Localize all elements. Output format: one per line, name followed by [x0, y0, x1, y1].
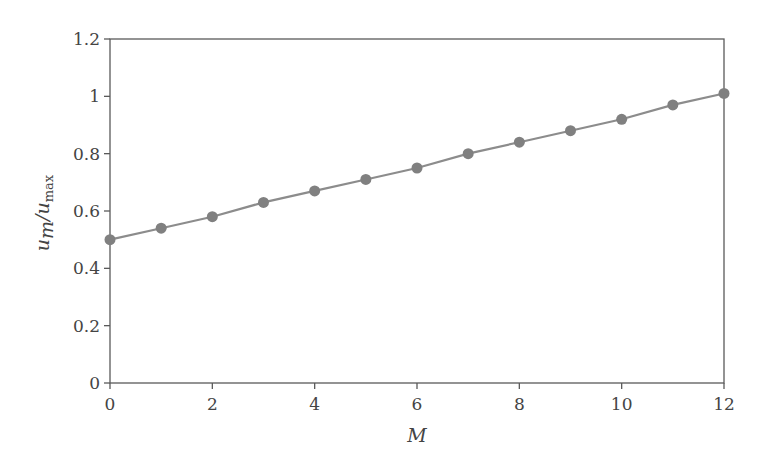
data-point-marker	[156, 223, 167, 234]
data-point-marker	[667, 99, 678, 110]
y-label-u1: u	[31, 239, 53, 251]
y-axis-label: um/umax	[31, 174, 57, 251]
x-tick-label: 12	[713, 394, 735, 414]
y-tick-label: 0.2	[73, 316, 100, 336]
data-point-marker	[105, 234, 116, 245]
y-label-sub2: max	[41, 174, 56, 202]
y-tick-label: 0.4	[73, 258, 100, 278]
data-series	[105, 88, 730, 245]
x-axis-ticks: 024681012	[105, 383, 735, 414]
x-tick-label: 0	[105, 394, 116, 414]
x-tick-label: 6	[412, 394, 423, 414]
data-point-marker	[412, 163, 423, 174]
data-point-marker	[514, 137, 525, 148]
y-label-sub1: m	[35, 221, 57, 239]
x-tick-label: 4	[309, 394, 320, 414]
x-tick-label: 10	[611, 394, 633, 414]
y-tick-label: 0	[89, 373, 100, 393]
y-tick-label: 0.8	[73, 144, 100, 164]
data-point-marker	[565, 125, 576, 136]
y-axis-ticks: 00.20.40.60.811.2	[73, 29, 110, 393]
y-tick-label: 1	[89, 86, 100, 106]
data-point-marker	[309, 185, 320, 196]
x-tick-label: 8	[514, 394, 525, 414]
data-point-marker	[463, 148, 474, 159]
y-tick-label: 0.6	[73, 201, 100, 221]
svg-text:um/umax: um/umax	[31, 174, 57, 251]
x-axis-label: M	[406, 424, 427, 446]
y-label-u2: u	[31, 202, 53, 214]
plot-frame	[110, 39, 724, 383]
data-point-marker	[258, 197, 269, 208]
data-point-marker	[616, 114, 627, 125]
plot-border	[110, 39, 724, 383]
data-point-marker	[207, 211, 218, 222]
x-tick-label: 2	[207, 394, 218, 414]
line-chart: 00.20.40.60.811.2 024681012 M um/umax	[0, 0, 767, 468]
y-tick-label: 1.2	[73, 29, 100, 49]
data-point-marker	[719, 88, 730, 99]
data-point-marker	[360, 174, 371, 185]
